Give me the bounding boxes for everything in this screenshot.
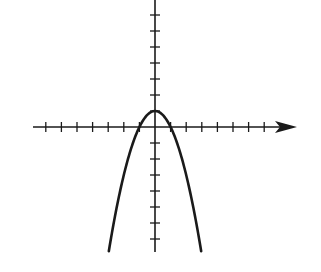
plot-area — [0, 0, 321, 272]
axes — [33, 0, 281, 252]
parabola-graph — [0, 0, 321, 272]
